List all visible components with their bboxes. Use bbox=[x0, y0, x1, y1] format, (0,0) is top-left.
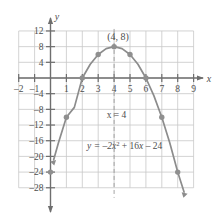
y-tick-label: 8 bbox=[39, 42, 44, 52]
y-tick-label: –24 bbox=[28, 167, 44, 177]
x-axis-label: x bbox=[206, 73, 212, 84]
x-tick-label: 6 bbox=[144, 84, 149, 94]
x-tick-label: 8 bbox=[175, 84, 180, 94]
y-tick-label: –12 bbox=[28, 120, 44, 130]
y-axis-label: y bbox=[54, 11, 60, 22]
x-axis-arrow bbox=[197, 75, 204, 80]
data-point bbox=[48, 169, 53, 174]
figure-container: –2–11234567891284–4–8–12–16–20–24–28xy(4… bbox=[0, 0, 220, 218]
x-tick-label: 5 bbox=[128, 84, 133, 94]
vertex-label: (4, 8) bbox=[107, 31, 129, 43]
y-tick-label: 4 bbox=[39, 58, 44, 68]
y-tick-label: –20 bbox=[28, 152, 44, 162]
y-tick-label: –4 bbox=[33, 89, 44, 99]
x-tick-label: –2 bbox=[13, 84, 24, 94]
data-point bbox=[127, 52, 132, 57]
y-axis-arrow bbox=[48, 17, 53, 24]
data-point bbox=[175, 169, 180, 174]
y-tick-label: –16 bbox=[28, 136, 44, 146]
data-point bbox=[96, 52, 101, 57]
data-point bbox=[80, 75, 85, 80]
y-tick-label: –8 bbox=[33, 105, 44, 115]
x-tick-label: 3 bbox=[96, 84, 101, 94]
y-tick-label: 12 bbox=[34, 26, 44, 36]
x-tick-label: 9 bbox=[191, 84, 196, 94]
axis-of-symmetry-label: x = 4 bbox=[107, 110, 127, 120]
y-axis-arrow-down bbox=[48, 206, 53, 213]
quadratic-graph: –2–11234567891284–4–8–12–16–20–24–28xy(4… bbox=[0, 0, 220, 218]
x-tick-label: 1 bbox=[64, 84, 69, 94]
data-point bbox=[111, 44, 116, 49]
data-point bbox=[159, 115, 164, 120]
equation-label: y = –2x2 + 16x – 24 bbox=[86, 140, 162, 152]
data-point bbox=[64, 115, 69, 120]
curve-arrow-right bbox=[182, 192, 188, 197]
x-tick-label: 7 bbox=[159, 84, 164, 94]
y-tick-label: –28 bbox=[28, 183, 44, 193]
data-point bbox=[143, 75, 148, 80]
